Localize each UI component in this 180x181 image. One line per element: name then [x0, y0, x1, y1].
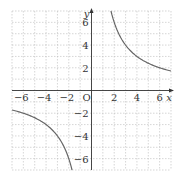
curve-branch-2: [12, 110, 72, 170]
axes: [12, 8, 174, 170]
y-axis-label: y: [83, 8, 90, 19]
y-tick-label: 2: [82, 63, 88, 74]
x-axis-label: x: [166, 92, 172, 103]
origin-label: O: [82, 92, 90, 103]
y-axis-arrow-icon: [90, 8, 94, 13]
y-tick-label: 4: [82, 40, 88, 51]
curve-branch-1: [111, 11, 171, 71]
y-tick-label: 6: [82, 17, 88, 28]
hyperbola-chart: −6−4−2246642−2−4−6Oxy: [0, 0, 180, 181]
x-tick-label: −6: [14, 92, 29, 103]
x-tick-label: −2: [59, 92, 74, 103]
x-tick-label: 4: [134, 92, 140, 103]
y-tick-label: −6: [74, 154, 89, 165]
x-tick-label: 2: [111, 92, 117, 103]
y-tick-label: −2: [74, 108, 89, 119]
y-tick-label: −4: [74, 131, 89, 142]
x-tick-label: −4: [37, 92, 52, 103]
x-tick-label: 6: [156, 92, 162, 103]
